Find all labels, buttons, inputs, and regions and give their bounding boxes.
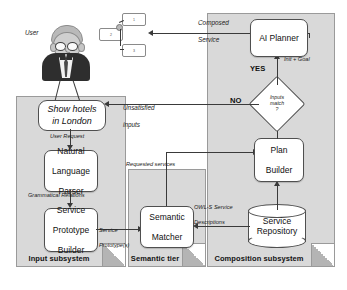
edge-label-init-goal: Init + Goal — [284, 56, 310, 64]
user-avatar-icon — [42, 25, 90, 83]
edge-label-composed-service: Composed Service — [198, 19, 258, 45]
composed-edge-2 — [120, 29, 121, 46]
connector-planner-down — [309, 33, 310, 38]
panel-label-semantic-tier: Semantic tier — [129, 254, 181, 263]
composed-service-node-1: 1 — [122, 13, 146, 26]
arrowhead-composed-service — [148, 30, 153, 36]
user-label: User — [25, 29, 39, 36]
node-ai-planner: AI Planner — [250, 19, 308, 57]
edge-label-service-prototypes: Service Prototype(s) — [99, 219, 139, 249]
edge-label-owls-descriptions: OWL-S Service Descriptions — [194, 196, 246, 226]
composed-service-node-3: 3 — [122, 44, 146, 57]
node-service-repository: Service Repository — [248, 204, 306, 248]
edge-label-requested-services: Requested services — [126, 161, 175, 169]
edge-label-user-request: User Request — [50, 133, 84, 141]
decision-inputs-match: Inputs match ? — [257, 84, 297, 124]
connector-yes-to-planner — [277, 58, 278, 85]
panel-label-composition-subsystem: Composition subsystem — [208, 254, 310, 263]
node-natural-language-parser: Natural Language Parser — [44, 150, 98, 192]
edge-label-unsatisfied-inputs: Unsatisfied inputs — [123, 95, 171, 130]
branch-label-yes: YES — [250, 64, 265, 73]
page-fold-corner-icon — [311, 243, 334, 266]
panel-label-input-subsystem: Input subsystem — [17, 254, 101, 263]
node-service-prototype-builder: Service Prototype Builder — [44, 208, 98, 252]
connector-requested-services — [166, 152, 254, 153]
user-utterance-bubble: Show hotels in London — [38, 100, 106, 131]
edge-label-grammatical-relations: Grammatical Relations — [28, 192, 85, 200]
arrowhead-unsatisfied-inputs — [104, 101, 109, 107]
composed-edge-3 — [120, 49, 124, 50]
node-plan-builder: Plan Builder — [254, 138, 304, 182]
architecture-diagram: Input subsystem Semantic tier Compositio… — [0, 0, 347, 290]
node-semantic-matcher: Semantic Matcher — [140, 206, 194, 248]
